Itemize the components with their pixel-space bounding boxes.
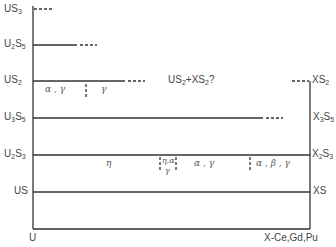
region-label-gamma-small: γ bbox=[165, 167, 170, 175]
phase-label-x2s3: X2S3 bbox=[312, 149, 333, 160]
region-label-alpha-beta-gamma: α , β , γ bbox=[256, 159, 290, 168]
phase-label-x3s5: X3S5 bbox=[313, 112, 334, 123]
phase-label-us: US bbox=[14, 186, 28, 196]
region-label-eta-alpha: η,α bbox=[162, 157, 175, 165]
phase-label-u2s5: U2S5 bbox=[4, 39, 26, 50]
axis-label-x: X-Ce,Gd,Pu bbox=[264, 233, 318, 243]
phase-label-u2s3: U2S3 bbox=[4, 149, 26, 160]
region-label-gamma: γ bbox=[101, 85, 106, 94]
phase-label-xs: XS bbox=[313, 186, 326, 196]
axis-label-u: U bbox=[29, 233, 36, 243]
phase-label-us2: US2 bbox=[4, 75, 22, 86]
phase-diagram-lines bbox=[0, 0, 336, 247]
region-label-alpha-gamma-2: α , γ bbox=[194, 159, 214, 168]
phase-label-u3s5: U3S5 bbox=[4, 112, 26, 123]
annotation-us2-xs2: US2+XS2? bbox=[168, 75, 214, 86]
region-label-alpha-gamma: α , γ bbox=[45, 85, 65, 94]
region-label-eta: η bbox=[106, 159, 111, 168]
phase-label-xs2: XS2 bbox=[312, 75, 329, 86]
phase-label-us3: US3 bbox=[4, 4, 22, 15]
